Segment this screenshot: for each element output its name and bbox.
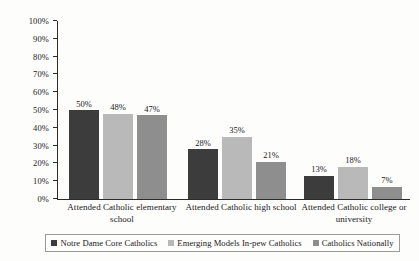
y-axis-tick: 20% bbox=[0, 157, 57, 169]
bar bbox=[188, 149, 218, 199]
bar bbox=[69, 110, 99, 199]
x-axis-category-label: Attended Catholic high school bbox=[185, 202, 297, 214]
y-axis-tick: 30% bbox=[0, 140, 57, 152]
legend-item: Emerging Models In-pew Catholics bbox=[168, 238, 301, 248]
y-axis-tick: 0% bbox=[0, 193, 57, 205]
legend-item: Catholics Nationally bbox=[313, 238, 394, 248]
y-axis-tick-label: 50% bbox=[33, 104, 49, 116]
y-axis-tick-label: 40% bbox=[33, 122, 49, 134]
bar-group: 28% 35% 21% bbox=[184, 21, 292, 199]
y-axis-tick-label: 20% bbox=[33, 157, 49, 169]
bar bbox=[222, 137, 252, 199]
bar-value-label: 18% bbox=[331, 155, 375, 165]
y-axis-tick: 60% bbox=[0, 86, 57, 98]
y-axis-tick-label: 0% bbox=[37, 193, 49, 205]
bar bbox=[256, 162, 286, 199]
legend-swatch-icon bbox=[313, 240, 319, 246]
y-axis-tick: 80% bbox=[0, 51, 57, 63]
legend-label: Notre Dame Core Catholics bbox=[60, 238, 157, 248]
y-axis-tick: 70% bbox=[0, 68, 57, 80]
y-axis-tick: 40% bbox=[0, 122, 57, 134]
y-axis-tick: 50% bbox=[0, 104, 57, 116]
legend-swatch-icon bbox=[51, 240, 57, 246]
y-axis-tick-label: 100% bbox=[29, 15, 49, 27]
bar-chart: 100% 90% 80% 70% 60% 50% 40% 30% bbox=[0, 0, 419, 261]
legend-label: Catholics Nationally bbox=[322, 238, 394, 248]
chart-legend: Notre Dame Core Catholics Emerging Model… bbox=[45, 234, 400, 252]
y-axis-tick-label: 10% bbox=[33, 175, 49, 187]
bar bbox=[137, 115, 167, 199]
bar bbox=[304, 176, 334, 199]
y-axis-tick-label: 70% bbox=[33, 68, 49, 80]
legend-label: Emerging Models In-pew Catholics bbox=[177, 238, 301, 248]
y-axis-tick-label: 90% bbox=[33, 33, 49, 45]
bar-value-label: 35% bbox=[215, 125, 259, 135]
y-axis-tick: 90% bbox=[0, 33, 57, 45]
legend-item: Notre Dame Core Catholics bbox=[51, 238, 157, 248]
y-axis-tick: 100% bbox=[0, 15, 57, 27]
x-axis-line bbox=[57, 199, 410, 200]
bar-group: 13% 18% 7% bbox=[300, 21, 408, 199]
y-axis-tick-label: 80% bbox=[33, 51, 49, 63]
bar-value-label: 47% bbox=[130, 104, 174, 114]
bar bbox=[103, 114, 133, 199]
bar bbox=[372, 187, 402, 199]
x-axis-category-label: Attended Catholic college or university bbox=[294, 202, 414, 225]
bar-group: 50% 48% 47% bbox=[65, 21, 173, 199]
bar-value-label: 21% bbox=[249, 150, 293, 160]
y-axis-tick: 10% bbox=[0, 175, 57, 187]
y-axis-tick-label: 30% bbox=[33, 140, 49, 152]
y-axis-tick-label: 60% bbox=[33, 86, 49, 98]
bar-value-label: 13% bbox=[297, 164, 341, 174]
bar-value-label: 7% bbox=[365, 175, 409, 185]
legend-swatch-icon bbox=[168, 240, 174, 246]
bar-value-label: 28% bbox=[181, 138, 225, 148]
bar bbox=[338, 167, 368, 199]
plot-area: 50% 48% 47% 28% bbox=[57, 21, 409, 199]
x-axis-category-label: Attended Catholic elementary school bbox=[56, 202, 188, 225]
